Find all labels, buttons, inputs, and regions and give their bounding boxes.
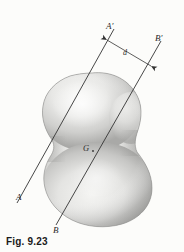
- label-axis-b-upper: B′: [155, 34, 162, 43]
- rigid-body-group: [0, 60, 184, 240]
- figure-container: A A′ B B′ d G Fig. 9.23: [0, 0, 184, 252]
- label-distance-d: d: [123, 49, 127, 57]
- label-axis-a-lower: A: [16, 193, 22, 202]
- label-axis-b-lower: B: [53, 226, 59, 235]
- body-shading: [0, 60, 184, 240]
- label-axis-a-upper: A′: [106, 22, 113, 31]
- label-center-of-mass: G: [83, 144, 89, 153]
- body-highlight-lower: [70, 158, 122, 198]
- right-waist-shadow: [120, 130, 142, 156]
- distance-dimension-line: [107, 40, 151, 66]
- center-of-mass-point: [92, 150, 94, 152]
- figure-caption: Fig. 9.23: [6, 236, 48, 247]
